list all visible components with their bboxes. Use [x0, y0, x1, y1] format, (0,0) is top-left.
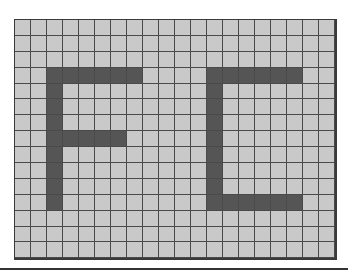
grid-cell — [159, 242, 175, 258]
grid-cell — [175, 52, 191, 68]
grid-cell — [79, 36, 95, 52]
grid-cell-filled — [47, 115, 63, 131]
grid-cell — [271, 36, 287, 52]
grid-cell — [159, 227, 175, 243]
grid-cell — [159, 131, 175, 147]
grid-cell — [271, 84, 287, 100]
grid-cell — [143, 163, 159, 179]
grid-cell — [223, 52, 239, 68]
grid-cell — [127, 195, 143, 211]
grid-cell — [303, 99, 319, 115]
grid-cell — [175, 131, 191, 147]
horizontal-divider — [0, 268, 348, 270]
grid-cell — [31, 20, 47, 36]
grid-cell — [79, 115, 95, 131]
grid-cell — [271, 131, 287, 147]
grid-cell — [159, 147, 175, 163]
grid-cell — [111, 84, 127, 100]
grid-cell — [95, 99, 111, 115]
grid-cell-filled — [223, 68, 239, 84]
grid-cell — [271, 115, 287, 131]
grid-cell-filled — [207, 163, 223, 179]
grid-cell — [111, 20, 127, 36]
grid-cell — [287, 99, 303, 115]
grid-cell — [63, 52, 79, 68]
grid-cell — [111, 163, 127, 179]
grid-cell — [303, 179, 319, 195]
grid-cell-filled — [239, 195, 255, 211]
grid-cell — [223, 115, 239, 131]
grid-cell — [31, 163, 47, 179]
grid-cell — [175, 147, 191, 163]
grid-cell — [95, 115, 111, 131]
grid-cell — [15, 84, 31, 100]
grid-cell — [63, 227, 79, 243]
grid-cell — [255, 115, 271, 131]
grid-cell — [143, 227, 159, 243]
grid-cell — [239, 179, 255, 195]
grid-cell — [303, 195, 319, 211]
grid-cell — [271, 211, 287, 227]
grid-cell-filled — [63, 131, 79, 147]
grid-cell — [143, 36, 159, 52]
grid-cell — [223, 242, 239, 258]
grid-cell — [271, 227, 287, 243]
grid-cell — [287, 131, 303, 147]
grid-cell — [63, 84, 79, 100]
grid-cell — [287, 36, 303, 52]
grid-cell — [31, 242, 47, 258]
grid-cell — [79, 227, 95, 243]
grid-cell — [63, 163, 79, 179]
grid-cell — [63, 115, 79, 131]
grid-cell — [31, 211, 47, 227]
grid-cell — [191, 36, 207, 52]
grid-cell — [63, 242, 79, 258]
grid-cell — [271, 99, 287, 115]
grid-cell — [95, 227, 111, 243]
grid-cell — [223, 36, 239, 52]
grid-cell — [239, 227, 255, 243]
grid-cell — [159, 115, 175, 131]
grid-cell — [175, 20, 191, 36]
grid-cell — [287, 227, 303, 243]
grid-cell — [175, 163, 191, 179]
grid-cell — [63, 179, 79, 195]
grid-cell — [95, 163, 111, 179]
grid-cell — [319, 227, 335, 243]
grid-cell — [255, 84, 271, 100]
grid-cell-filled — [111, 68, 127, 84]
grid-cell — [15, 131, 31, 147]
grid-cell — [255, 147, 271, 163]
grid-cell — [159, 36, 175, 52]
grid-cell — [303, 20, 319, 36]
grid-cell — [287, 115, 303, 131]
grid-cell — [79, 147, 95, 163]
grid-cell — [255, 99, 271, 115]
grid-cell — [95, 242, 111, 258]
grid-cell — [319, 52, 335, 68]
grid-cell — [111, 227, 127, 243]
grid-cell — [303, 52, 319, 68]
grid-cell — [207, 227, 223, 243]
grid-cell-filled — [207, 99, 223, 115]
grid-cell — [175, 84, 191, 100]
grid-cell — [143, 242, 159, 258]
grid-cell-filled — [47, 68, 63, 84]
grid-cell — [95, 84, 111, 100]
grid-cell — [15, 68, 31, 84]
grid-cell — [191, 68, 207, 84]
grid-cell — [127, 84, 143, 100]
grid-cell — [303, 36, 319, 52]
grid-cell — [31, 131, 47, 147]
grid-cell — [191, 131, 207, 147]
grid-cell — [31, 99, 47, 115]
grid-cell — [223, 179, 239, 195]
grid-cell — [47, 20, 63, 36]
grid-cell — [239, 99, 255, 115]
grid-cell-filled — [287, 195, 303, 211]
grid-cell — [95, 36, 111, 52]
grid-cell — [127, 179, 143, 195]
grid-cell — [255, 227, 271, 243]
grid-cell — [271, 242, 287, 258]
grid-cell — [303, 115, 319, 131]
